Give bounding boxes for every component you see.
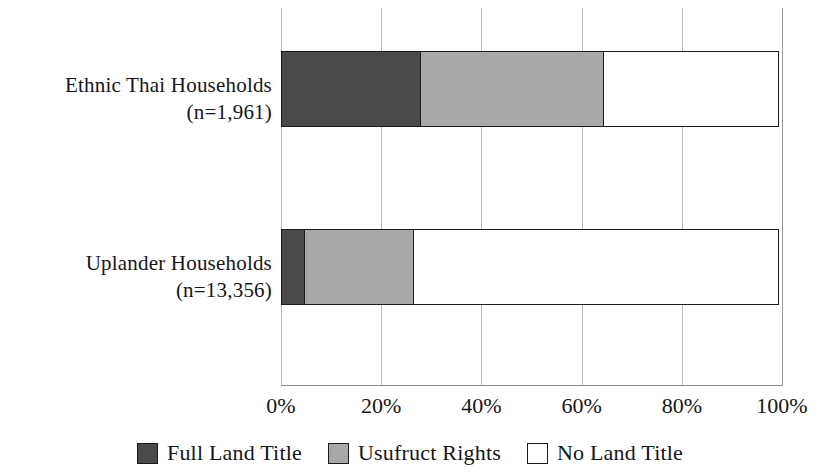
bar-segment-no-land-title [603, 51, 778, 127]
bar-segment-usufruct-rights [420, 51, 605, 127]
bar-segment-full-land-title [281, 51, 421, 127]
category-label-ethnic-thai-line1: Ethnic Thai Households [65, 73, 272, 97]
legend-label-full-land-title: Full Land Title [167, 440, 302, 466]
chart-legend: Full Land Title Usufruct Rights No Land … [0, 440, 820, 466]
legend-label-usufruct-rights: Usufruct Rights [358, 440, 501, 466]
bar-segment-usufruct-rights [304, 229, 414, 305]
bar-ethnic-thai-households [281, 51, 782, 127]
stacked-bar-chart: Ethnic Thai Households (n=1,961) Uplande… [0, 0, 820, 474]
legend-label-no-land-title: No Land Title [557, 440, 683, 466]
x-axis-line [281, 385, 782, 386]
bar-segment-no-land-title [413, 229, 779, 305]
legend-item-usufruct-rights: Usufruct Rights [328, 440, 501, 466]
gridline-100 [782, 8, 783, 386]
legend-item-full-land-title: Full Land Title [137, 440, 302, 466]
category-label-ethnic-thai-line2: (n=1,961) [10, 99, 272, 126]
category-label-ethnic-thai: Ethnic Thai Households (n=1,961) [10, 72, 272, 126]
legend-swatch-no-land-title [527, 443, 548, 464]
bar-uplander-households [281, 229, 782, 305]
x-tick-label-100: 100% [722, 392, 820, 420]
bar-segment-full-land-title [281, 229, 306, 305]
legend-swatch-full-land-title [137, 443, 158, 464]
category-label-uplander-line2: (n=13,356) [10, 277, 272, 304]
legend-item-no-land-title: No Land Title [527, 440, 683, 466]
legend-swatch-usufruct-rights [328, 443, 349, 464]
category-label-uplander-line1: Uplander Households [86, 251, 272, 275]
category-label-uplander: Uplander Households (n=13,356) [10, 250, 272, 304]
